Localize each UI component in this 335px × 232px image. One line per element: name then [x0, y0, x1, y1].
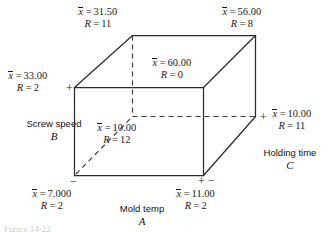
- r-symbol: R: [160, 69, 167, 81]
- r-symbol: R: [40, 200, 47, 212]
- figure-caption: Figure 14-22: [4, 224, 51, 232]
- factor-label-holding-time: Holding time C: [247, 147, 333, 172]
- stat-back-bottom-left: x=10.00 R=12: [97, 122, 136, 147]
- r-symbol: R: [278, 120, 285, 132]
- sign-c-high: +: [260, 111, 267, 123]
- edge-depth-top-left: [75, 36, 133, 88]
- xbar-symbol: x: [272, 108, 278, 120]
- factor-name-c: Holding time: [264, 147, 317, 158]
- xbar-symbol: x: [222, 6, 228, 18]
- r-symbol: R: [230, 18, 237, 30]
- sign-b-high: +: [66, 82, 73, 94]
- edge-depth-top-right: [204, 36, 256, 88]
- factor-name-b: Screw speed: [27, 118, 82, 129]
- stat-back-top-right: x=56.00 R=8: [222, 6, 261, 31]
- factor-code-c: C: [247, 159, 333, 172]
- xbar-symbol: x: [8, 70, 14, 82]
- xbar-symbol: x: [78, 6, 84, 18]
- stat-front-top-right: x=60.00 R=0: [152, 57, 191, 82]
- sign-c-low: −: [208, 174, 215, 186]
- r-symbol: R: [103, 134, 110, 146]
- xbar-symbol: x: [152, 57, 158, 69]
- stat-back-bottom-right: x=10.00 R=11: [272, 108, 311, 133]
- sign-a-high: +: [198, 175, 205, 187]
- factor-name-a: Mold temp: [120, 203, 164, 214]
- factor-label-mold-temp: Mold temp A: [96, 203, 188, 228]
- xbar-symbol: x: [176, 188, 182, 200]
- factor-label-screw-speed: Screw speed B: [6, 118, 102, 143]
- stat-front-top-left: x=33.00 R=2: [8, 70, 47, 95]
- stat-back-top-left: x=31.50 R=11: [78, 6, 117, 31]
- r-symbol: R: [16, 82, 23, 94]
- r-symbol: R: [84, 18, 91, 30]
- factor-code-b: B: [6, 130, 102, 143]
- sign-a-low: −: [70, 175, 77, 187]
- xbar-symbol: x: [32, 188, 38, 200]
- stat-front-bottom-left: x=7.000 R=2: [32, 188, 71, 213]
- cube-plot-figure: x=31.50 R=11 x=56.00 R=8 x=33.00 R=2 x=6…: [0, 0, 335, 232]
- factor-code-a: A: [96, 215, 188, 228]
